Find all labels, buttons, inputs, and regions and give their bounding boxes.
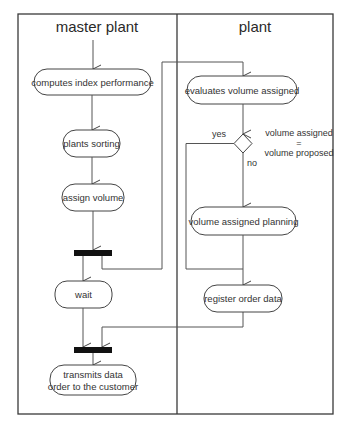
action-assign-volume: assign volume xyxy=(62,184,124,211)
svg-text:register order data: register order data xyxy=(204,293,282,304)
svg-text:transmits data: transmits data xyxy=(63,369,123,380)
action-wait: wait xyxy=(55,281,112,308)
decision-yes-label: yes xyxy=(212,129,227,139)
join-bar xyxy=(74,347,112,353)
decision-diamond xyxy=(234,134,252,153)
lane-title-master-plant: master plant xyxy=(56,18,139,35)
svg-text:volume proposed: volume proposed xyxy=(264,148,333,158)
svg-text:order to the customer: order to the customer xyxy=(48,381,138,392)
decision-no-label: no xyxy=(247,158,257,168)
flow-decision-yes-to-register xyxy=(186,144,243,270)
action-computes-index-performance: computes index performance xyxy=(31,69,154,95)
action-evaluates-volume-assigned: evaluates volume assigned xyxy=(185,76,300,104)
svg-text:=: = xyxy=(296,138,301,148)
svg-text:evaluates volume assigned: evaluates volume assigned xyxy=(185,85,300,96)
action-plants-sorting: plants sorting xyxy=(63,130,120,157)
action-volume-assigned-planning: volume assigned planning xyxy=(189,207,299,235)
decision-condition: volume assigned = volume proposed xyxy=(264,128,333,158)
fork-bar xyxy=(74,250,112,256)
activity-diagram: master plant plant computes index perfor… xyxy=(0,0,348,431)
action-register-order-data: register order data xyxy=(204,285,283,312)
svg-text:volume assigned: volume assigned xyxy=(265,128,333,138)
svg-text:assign volume: assign volume xyxy=(63,192,124,203)
flow-register-to-join xyxy=(102,312,243,347)
svg-text:plants sorting: plants sorting xyxy=(63,138,120,149)
svg-text:computes index performance: computes index performance xyxy=(31,77,154,88)
svg-text:volume assigned planning: volume assigned planning xyxy=(189,216,299,227)
action-transmits-data-order: transmits data order to the customer xyxy=(48,365,138,395)
svg-text:wait: wait xyxy=(74,289,92,300)
lane-title-plant: plant xyxy=(239,18,272,35)
